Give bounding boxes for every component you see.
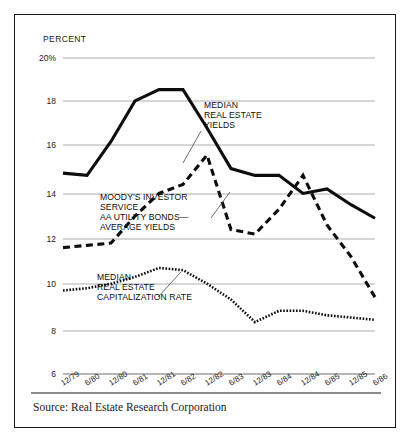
y-axis-tick-labels: PERCENT 20% 18 16 14 12 10 8 6 [39, 34, 86, 379]
y-tick-6: 6 [51, 369, 56, 379]
x-tick-12-81: 12/81 [155, 369, 177, 388]
x-axis-tick-labels: 12/796/8012/806/8112/816/8212/826/8312/8… [59, 369, 389, 388]
annot-yields-line-2: REAL ESTATE [204, 110, 262, 120]
y-tick-14: 14 [47, 189, 57, 199]
y-tick-10: 10 [47, 279, 57, 289]
annotation-moodys: MOODY'S INVESTOR SERVICE AA UTILITY BOND… [100, 192, 189, 232]
x-tick-12-79: 12/79 [59, 369, 81, 388]
y-tick-12: 12 [47, 234, 57, 244]
annot-caprate-line-2: REAL ESTATE [97, 282, 155, 292]
y-axis-title: PERCENT [43, 34, 86, 44]
x-tick-12-80: 12/80 [107, 369, 129, 388]
annot-moodys-line-2: SERVICE [100, 202, 138, 212]
y-tick-20: 20% [39, 53, 56, 63]
annot-caprate-line-1: MEDIAN [97, 272, 131, 282]
x-tick-12-83: 12/83 [251, 369, 273, 388]
annot-yields-line-1: MEDIAN [204, 100, 238, 110]
annot-yields-line-3: YIELDS [204, 120, 235, 130]
chart-figure: PERCENT 20% 18 16 14 12 10 8 6 MEDIAN RE… [14, 14, 396, 428]
y-tick-18: 18 [47, 96, 57, 106]
annotation-capitalization-rate: MEDIAN REAL ESTATE CAPITALIZATION RATE [97, 272, 192, 302]
leader-line-yields [183, 131, 201, 163]
y-tick-16: 16 [47, 140, 57, 150]
source-note: Source: Real Estate Research Corporation [33, 401, 227, 413]
annot-moodys-line-1: MOODY'S INVESTOR [100, 192, 188, 202]
annot-moodys-line-3: AA UTILITY BONDS— [100, 212, 189, 222]
x-tick-12-85: 12/85 [347, 369, 369, 388]
y-tick-8: 8 [51, 326, 56, 336]
x-tick-12-82: 12/82 [203, 369, 225, 388]
chart-plot-area: PERCENT 20% 18 16 14 12 10 8 6 MEDIAN RE… [15, 15, 397, 429]
annotation-median-real-estate-yields: MEDIAN REAL ESTATE YIELDS [204, 100, 262, 130]
annot-moodys-line-4: AVERAGE YIELDS [100, 222, 175, 232]
x-tick-12-84: 12/84 [299, 369, 321, 388]
annot-caprate-line-3: CAPITALIZATION RATE [97, 292, 192, 302]
